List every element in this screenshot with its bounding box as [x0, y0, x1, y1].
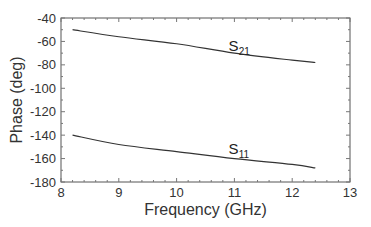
y-tick-label: -40 — [37, 11, 56, 26]
x-tick-label: 11 — [228, 185, 242, 200]
x-tick-label: 12 — [285, 185, 299, 200]
series-label-s11: S11 — [229, 140, 250, 160]
series-line-s21 — [73, 30, 316, 63]
x-tick-label: 8 — [57, 185, 64, 200]
y-tick-label: -140 — [30, 128, 56, 143]
y-axis-title: Phase (deg) — [8, 56, 25, 143]
y-tick-label: -60 — [37, 34, 56, 49]
y-tick-label: -120 — [30, 104, 56, 119]
y-tick-label: -160 — [30, 151, 56, 166]
axis-tick-labels: 8910111213-40-60-80-100-120-140-160-180 — [30, 11, 357, 201]
series-line-s11 — [73, 135, 316, 168]
data-series — [73, 30, 316, 168]
phase-vs-frequency-chart: 8910111213-40-60-80-100-120-140-160-180 … — [0, 0, 371, 227]
axis-ticks — [61, 18, 350, 182]
x-axis-title: Frequency (GHz) — [144, 201, 267, 218]
y-tick-label: -180 — [30, 175, 56, 190]
x-tick-label: 9 — [115, 185, 122, 200]
x-tick-label: 13 — [343, 185, 357, 200]
series-labels: S21S11 — [229, 37, 251, 160]
series-label-s21: S21 — [229, 37, 251, 57]
x-tick-label: 10 — [169, 185, 183, 200]
plot-frame — [61, 18, 350, 182]
y-tick-label: -80 — [37, 57, 56, 72]
y-tick-label: -100 — [30, 81, 56, 96]
